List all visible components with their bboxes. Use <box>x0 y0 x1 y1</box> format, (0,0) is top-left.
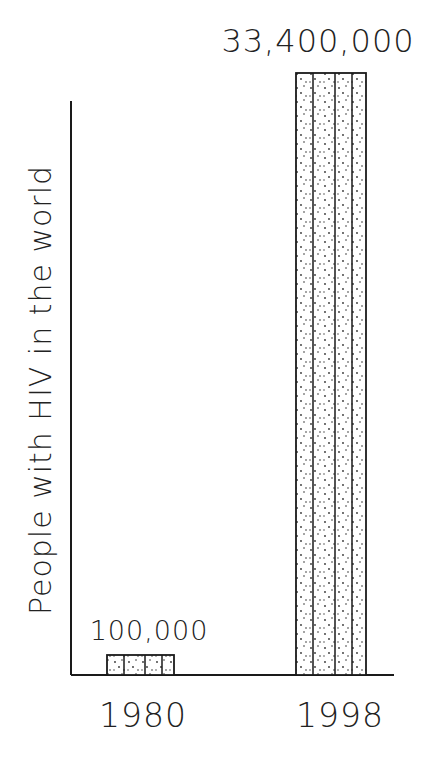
chart-canvas <box>0 0 434 759</box>
bar-1998 <box>296 73 366 675</box>
category-label-1998: 1998 <box>296 696 384 735</box>
value-label-1980: 100,000 <box>90 615 209 646</box>
bar-1980 <box>107 655 174 675</box>
category-label-1980: 1980 <box>99 696 187 735</box>
value-label-1998: 33,400,000 <box>221 22 414 60</box>
y-axis-label: People with HIV in the world <box>23 165 58 615</box>
